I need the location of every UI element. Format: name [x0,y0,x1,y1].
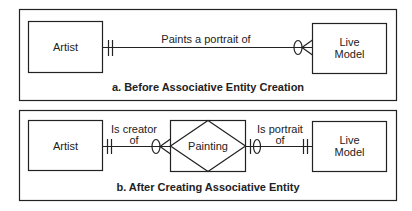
panel-b: Artist Painting Live Model Is creator of… [20,111,397,201]
entity-artist-a-label: Artist [53,41,78,53]
panel-b-caption: b. After Creating Associative Entity [116,181,300,193]
associative-entity-painting-label: Painting [188,140,228,152]
entity-live-model-a-label-2: Model [335,48,365,60]
entity-live-model-b-label-2: Model [335,146,365,158]
relationship-label-a: Paints a portrait of [161,33,251,45]
panel-a: Artist Live Model Paints a portrait of a… [20,10,397,101]
relationship-label-b-right-2: of [275,134,285,146]
entity-live-model-a-label-1: Live [339,36,359,48]
panel-a-caption: a. Before Associative Entity Creation [112,81,304,93]
entity-artist-b-label: Artist [53,140,78,152]
entity-live-model-b-label-1: Live [339,134,359,146]
relationship-label-b-left-2: of [129,134,139,146]
